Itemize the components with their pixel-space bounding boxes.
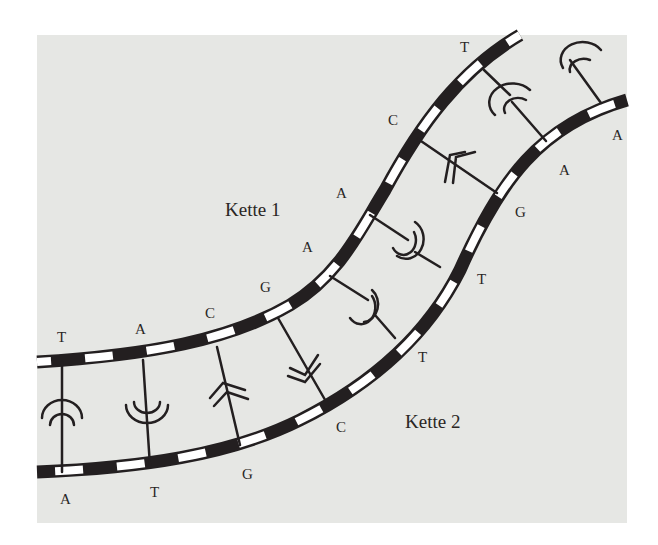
base-pair-5-rung	[330, 276, 395, 338]
base-label-kette2-7: G	[515, 205, 526, 220]
chain-label-kette-1: Kette 1	[225, 200, 280, 219]
base-label-kette2-6: T	[477, 272, 486, 287]
base-label-kette1-7: C	[388, 113, 398, 128]
base-pair-6-rung	[370, 215, 440, 267]
base-label-kette1-4: G	[260, 280, 271, 295]
base-pair-1-rung	[42, 362, 82, 472]
dna-double-strand-diagram	[0, 0, 658, 545]
base-label-kette2-1: A	[60, 492, 71, 507]
base-label-kette2-2: T	[150, 485, 159, 500]
base-label-kette1-1: T	[57, 330, 66, 345]
base-label-kette2-5: T	[418, 350, 427, 365]
base-pair-2-rung	[126, 360, 168, 466]
base-label-kette2-4: C	[336, 420, 346, 435]
base-label-kette2-8: A	[559, 163, 570, 178]
base-label-kette1-5: A	[302, 240, 313, 255]
base-pair-7-rung	[418, 139, 497, 193]
base-label-kette1-2: A	[135, 322, 146, 337]
base-label-kette1-3: C	[205, 306, 215, 321]
base-pair-4-rung	[278, 318, 328, 405]
base-label-kette2-3: G	[242, 467, 253, 482]
base-pair-3-rung	[210, 347, 248, 445]
base-pair-9-rung	[561, 42, 601, 103]
base-label-kette1-8: T	[460, 40, 469, 55]
strand-kette-2	[37, 100, 627, 472]
base-label-kette1-6: A	[336, 186, 347, 201]
base-label-kette2-9: A	[612, 128, 623, 143]
base-pair-8-rung	[484, 70, 546, 141]
chain-label-kette-2: Kette 2	[405, 412, 460, 431]
